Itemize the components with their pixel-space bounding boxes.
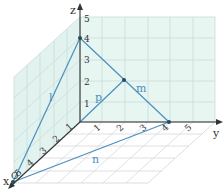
y-axis-label: y xyxy=(212,127,220,140)
label-n: n xyxy=(92,153,99,166)
z-axis-arrow-icon xyxy=(77,3,83,10)
x-axis-label: x xyxy=(3,175,10,188)
svg-text:4: 4 xyxy=(84,34,90,44)
svg-text:5: 5 xyxy=(84,14,90,24)
point-mid xyxy=(122,78,126,82)
svg-text:2: 2 xyxy=(84,77,90,87)
3d-coordinate-diagram: z y x O 1 2 3 4 5 1 2 3 4 5 1 2 3 4 5 l … xyxy=(0,0,224,195)
svg-text:3: 3 xyxy=(84,55,90,65)
z-axis-label: z xyxy=(70,4,76,17)
label-m: m xyxy=(136,82,147,95)
svg-text:1: 1 xyxy=(84,99,90,109)
yz-plane-wall xyxy=(80,17,215,122)
point-z4 xyxy=(78,36,82,40)
y-axis-arrow-icon xyxy=(216,119,223,125)
point-y4 xyxy=(167,120,171,124)
label-l: l xyxy=(49,91,53,104)
label-p: p xyxy=(95,91,102,104)
